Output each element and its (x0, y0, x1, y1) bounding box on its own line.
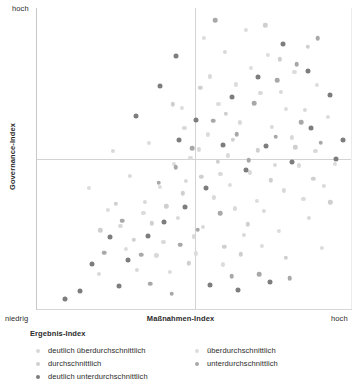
data-point (134, 114, 139, 119)
data-point (89, 261, 94, 266)
data-point (199, 174, 203, 178)
data-point (277, 229, 281, 233)
data-point (326, 115, 330, 119)
data-point (279, 90, 283, 94)
data-point (176, 138, 181, 143)
legend-item-label: deutlich überdurchschnittlich (48, 346, 146, 355)
data-point (154, 253, 158, 257)
data-point (63, 296, 68, 301)
data-point (223, 50, 227, 54)
data-point (190, 146, 195, 151)
data-point (181, 191, 185, 195)
data-point (255, 199, 259, 203)
data-point (328, 200, 332, 204)
data-point (294, 62, 299, 67)
data-point (202, 36, 206, 40)
x-axis-title: Maßnahmen-Index (0, 314, 361, 323)
data-point (156, 180, 161, 185)
legend-title: Ergebnis-Index (30, 329, 361, 338)
data-point (212, 195, 216, 199)
legend-item[interactable]: deutlich unterdurchschnittlich (36, 370, 148, 383)
data-point (158, 185, 162, 189)
data-point (171, 102, 175, 106)
data-point (246, 158, 251, 163)
data-point (182, 126, 186, 130)
data-point (105, 208, 109, 212)
data-point (208, 74, 212, 78)
y-axis-title: Governance-Index (8, 97, 17, 217)
data-point (311, 177, 315, 181)
data-point (243, 28, 247, 32)
data-point (234, 132, 239, 137)
data-point (218, 211, 223, 216)
data-point (206, 132, 210, 136)
legend-swatch-icon (36, 362, 40, 366)
data-point (252, 101, 257, 106)
data-point (262, 209, 266, 213)
legend-item-label: überdurchschnittlich (207, 346, 276, 355)
data-point (246, 222, 250, 226)
data-point (170, 291, 175, 296)
data-point (264, 144, 269, 149)
data-point (301, 196, 305, 200)
data-point (290, 159, 295, 164)
data-point (309, 126, 314, 131)
data-point (178, 243, 183, 248)
data-point (275, 78, 280, 83)
data-point (141, 211, 145, 215)
data-point (108, 234, 113, 239)
data-point (143, 200, 147, 204)
data-point (197, 147, 201, 151)
data-point (147, 141, 151, 145)
data-point (248, 170, 252, 174)
legend-item-label: unterdurchschnittlich (207, 359, 278, 368)
data-point (268, 280, 273, 285)
y-axis-high-label: hoch (12, 4, 29, 13)
data-point (194, 251, 198, 255)
data-point (139, 253, 144, 258)
data-point (303, 108, 307, 112)
data-point (77, 288, 82, 293)
legend-item-label: durchschnittlich (48, 359, 101, 368)
data-point (111, 149, 115, 153)
data-point (148, 281, 153, 286)
data-point (186, 261, 190, 265)
scatter-plot-figure: hoch Governance-Index niedrig Maßnahmen-… (0, 0, 361, 391)
horizontal-reference-line (37, 159, 352, 160)
data-point (293, 145, 297, 149)
data-point (164, 204, 168, 208)
data-point (333, 162, 337, 166)
data-point (124, 247, 128, 251)
data-point (282, 188, 286, 192)
data-point (218, 171, 222, 175)
data-point (257, 272, 262, 277)
data-point (213, 18, 218, 23)
data-point (270, 125, 274, 129)
data-point (132, 238, 136, 242)
legend-item[interactable]: deutlich überdurchschnittlich (36, 344, 148, 357)
legend-item[interactable]: überdurchschnittlich (195, 344, 278, 357)
data-point (273, 162, 277, 166)
data-point (176, 216, 180, 220)
data-point (230, 95, 235, 100)
data-point (255, 75, 260, 80)
data-point (280, 42, 285, 47)
data-point (238, 120, 242, 124)
data-point (292, 69, 296, 73)
data-point (277, 57, 281, 61)
data-point (260, 244, 264, 248)
legend-item[interactable]: durchschnittlich (36, 357, 148, 370)
legend-item[interactable]: unterdurchschnittlich (195, 357, 278, 370)
data-point (283, 256, 287, 260)
legend-column-right: überdurchschnittlichunterdurchschnittlic… (195, 344, 278, 370)
data-point (224, 111, 228, 115)
data-point (233, 206, 237, 210)
data-point (97, 272, 101, 276)
data-point (195, 227, 200, 232)
data-point (239, 252, 243, 256)
data-point (211, 119, 216, 124)
data-point (305, 69, 310, 74)
data-point (320, 246, 324, 250)
data-point (118, 224, 122, 228)
data-point (313, 149, 317, 153)
